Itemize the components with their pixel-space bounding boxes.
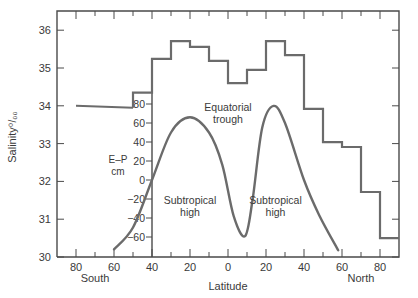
south-label: South	[81, 272, 110, 284]
ep-label-line1: E–P	[109, 154, 128, 165]
subtropical-high-north-label-line1: Subtropical	[249, 194, 302, 206]
salinity-label: Salinity	[6, 127, 18, 163]
data-series	[76, 41, 399, 250]
salinity-tick-label: 36	[39, 24, 51, 36]
salinity-tick-label: 32	[39, 175, 51, 187]
equatorial-trough-label-line2: trough	[213, 113, 243, 125]
ep-tick-label: 40	[133, 136, 145, 148]
ep-curve	[114, 106, 338, 250]
ep-tick-label: 0	[139, 174, 145, 186]
permil-symbol: ⁰/₀₀	[7, 111, 18, 126]
x-tick-label: 80	[374, 261, 386, 273]
salinity-tick-label: 34	[39, 100, 51, 112]
axis-ticks: 8060402002040608036353433323130806040200…	[39, 11, 399, 273]
ep-tick-label: 20	[133, 155, 145, 167]
x-tick-label: 20	[260, 261, 272, 273]
x-tick-label: 60	[336, 261, 348, 273]
salinity-south-segment	[76, 106, 133, 108]
x-tick-label: 40	[298, 261, 310, 273]
x-axis-label: Latitude	[208, 280, 247, 292]
x-tick-label: 20	[184, 261, 196, 273]
ep-label-line2: cm	[111, 166, 124, 177]
subtropical-high-south-label-line1: Subtropical	[164, 194, 217, 206]
salinity-axis-title: Salinity ⁰/₀₀	[6, 111, 18, 162]
salinity-tick-label: 30	[39, 251, 51, 263]
subtropical-high-north-label-line2: high	[266, 206, 286, 218]
salinity-tick-label: 35	[39, 62, 51, 74]
salinity-tick-label: 31	[39, 213, 51, 225]
salinity-tick-label: 33	[39, 138, 51, 150]
x-tick-label: 0	[225, 261, 231, 273]
x-tick-label: 60	[108, 261, 120, 273]
north-label: North	[348, 272, 375, 284]
salinity-ep-chart: 8060402002040608036353433323130806040200…	[0, 0, 418, 298]
x-tick-label: 40	[146, 261, 158, 273]
subtropical-high-south-label-line2: high	[180, 206, 200, 218]
plot-border	[57, 11, 399, 257]
plot-frame	[57, 11, 399, 257]
ep-tick-label: 60	[133, 117, 145, 129]
ep-tick-label: 80	[133, 98, 145, 110]
equatorial-trough-label-line1: Equatorial	[204, 101, 251, 113]
